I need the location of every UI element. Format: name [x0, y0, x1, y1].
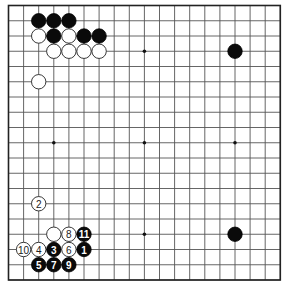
stone-disc: [32, 29, 46, 43]
stone-disc: [228, 44, 242, 58]
black-stone: 5: [32, 258, 46, 272]
star-point: [143, 232, 147, 236]
black-stone: 1: [77, 242, 91, 256]
star-point: [143, 141, 147, 145]
stone-disc: [32, 14, 46, 28]
star-point: [52, 141, 56, 145]
move-number-label: 2: [36, 199, 42, 210]
move-number-label: 4: [36, 245, 42, 256]
stone-disc: [47, 44, 61, 58]
move-number-label: 6: [66, 245, 72, 256]
black-stone: 11: [77, 227, 91, 241]
stone-disc: [47, 227, 61, 241]
white-stone: 10: [16, 242, 30, 256]
stone-disc: [92, 29, 106, 43]
white-stone: [62, 44, 76, 58]
stone-disc: [77, 29, 91, 43]
stone-disc: [32, 75, 46, 89]
black-stone: [77, 29, 91, 43]
black-stone: [47, 14, 61, 28]
stone-disc: [228, 227, 242, 241]
move-number-label: 3: [51, 245, 57, 256]
black-stone: [92, 29, 106, 43]
move-number-label: 11: [79, 229, 90, 240]
stone-disc: [92, 44, 106, 58]
move-number-label: 7: [51, 260, 57, 271]
move-number-label: 10: [18, 245, 30, 256]
stone-disc: [62, 29, 76, 43]
white-stone: [77, 44, 91, 58]
stone-disc: [47, 29, 61, 43]
black-stone: 3: [47, 242, 61, 256]
black-stone: [47, 29, 61, 43]
black-stone: [228, 227, 242, 241]
black-stone: 9: [62, 258, 76, 272]
white-stone: 4: [32, 242, 46, 256]
white-stone: 8: [62, 227, 76, 241]
white-stone: 2: [32, 197, 46, 211]
move-number-label: 1: [81, 245, 87, 256]
move-number-label: 8: [66, 229, 72, 240]
black-stone: [32, 14, 46, 28]
star-point: [143, 49, 147, 53]
move-number-label: 9: [66, 260, 72, 271]
star-point: [233, 141, 237, 145]
black-stone: [62, 14, 76, 28]
black-stone: 7: [47, 258, 61, 272]
stone-disc: [77, 44, 91, 58]
black-stone: [228, 44, 242, 58]
white-stone: [32, 75, 46, 89]
white-stone: [62, 29, 76, 43]
white-stone: [47, 227, 61, 241]
stone-disc: [62, 44, 76, 58]
white-stone: [32, 29, 46, 43]
move-number-label: 5: [36, 260, 42, 271]
go-board: 2811104361579: [0, 0, 287, 286]
stone-disc: [47, 14, 61, 28]
white-stone: [47, 44, 61, 58]
white-stone: [92, 44, 106, 58]
stone-disc: [62, 14, 76, 28]
white-stone: 6: [62, 242, 76, 256]
